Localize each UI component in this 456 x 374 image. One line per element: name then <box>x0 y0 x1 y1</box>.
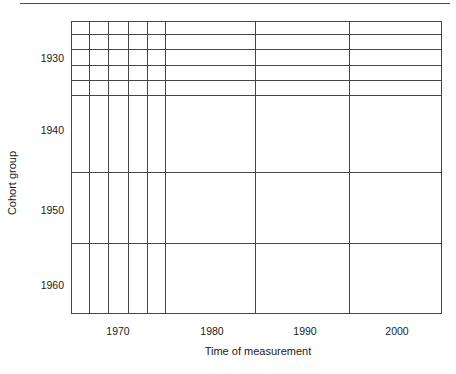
gridline-v-8 <box>441 21 442 314</box>
y-tick-label-1940: 1940 <box>41 124 64 136</box>
gridline-v-2 <box>108 21 109 314</box>
x-axis-title: Time of measurement <box>205 345 312 357</box>
gridline-h-5 <box>71 95 442 96</box>
gridline-v-4 <box>147 21 148 314</box>
gridline-v-3 <box>128 21 129 314</box>
gridline-v-7 <box>349 21 350 314</box>
gridline-v-6 <box>255 21 256 314</box>
gridline-v-1 <box>89 21 90 314</box>
gridline-h-2 <box>71 49 442 50</box>
lexis-grid-figure: 1930 1940 1950 1960 Cohort group 1970 19… <box>0 0 456 374</box>
y-axis-title: Cohort group <box>6 108 18 258</box>
y-tick-label-1960: 1960 <box>41 279 64 291</box>
plot-area <box>71 21 442 314</box>
y-tick-label-1950: 1950 <box>41 204 64 216</box>
x-tick-label-1980: 1980 <box>200 325 223 337</box>
x-tick-label-1990: 1990 <box>293 325 316 337</box>
gridline-v-0 <box>71 21 72 314</box>
x-tick-label-1970: 1970 <box>106 325 129 337</box>
gridline-h-0 <box>71 21 442 22</box>
y-tick-label-1930: 1930 <box>41 52 64 64</box>
gridline-v-5 <box>165 21 166 314</box>
gridline-h-3 <box>71 65 442 66</box>
gridline-h-4 <box>71 80 442 81</box>
gridline-h-1 <box>71 34 442 35</box>
gridline-h-8 <box>71 313 442 314</box>
gridline-h-6 <box>71 172 442 173</box>
header-rule <box>20 3 450 4</box>
x-tick-label-2000: 2000 <box>385 325 408 337</box>
gridline-h-7 <box>71 243 442 244</box>
x-axis-title-wrap: Time of measurement <box>0 345 456 357</box>
